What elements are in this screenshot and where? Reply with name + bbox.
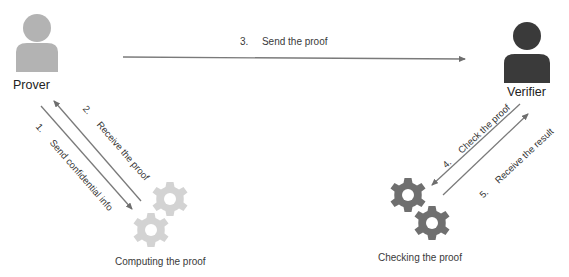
checking-proof-label: Checking the proof: [378, 252, 462, 263]
computing-proof-label: Computing the proof: [115, 256, 206, 267]
step-3-label: 3. Send the proof: [240, 36, 328, 47]
checking-gears-icon: [391, 178, 450, 240]
step-3-text: Send the proof: [262, 36, 328, 47]
step-3-number: 3.: [240, 36, 248, 47]
arrow-send-proof: [123, 57, 465, 59]
arrow-send-confidential-info: [41, 106, 132, 209]
computing-gears-icon: [134, 182, 188, 247]
prover-person-icon: [16, 14, 58, 72]
verifier-label: Verifier: [507, 85, 546, 99]
prover-label: Prover: [13, 78, 50, 92]
verifier-person-icon: [504, 22, 550, 83]
